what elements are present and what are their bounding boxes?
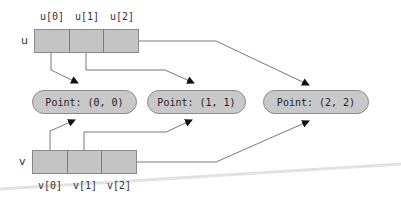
array-cell-v0	[33, 151, 68, 173]
point-object-2: Point: (2, 2)	[263, 90, 369, 114]
array-cell-u2	[104, 30, 138, 52]
arrow-v2	[119, 121, 309, 162]
point-object-0: Point: (0, 0)	[32, 90, 137, 114]
array-cell-u0	[35, 30, 70, 52]
point-object-1: Point: (1, 1)	[147, 90, 246, 114]
array-u	[34, 29, 139, 53]
index-label-u2: u[2]	[110, 11, 134, 22]
index-label-u0: u[0]	[40, 11, 64, 22]
arrow-u2	[120, 41, 309, 85]
array-cell-v2	[102, 151, 136, 173]
array-name-v: v	[19, 155, 26, 168]
index-label-v0: v[0]	[38, 180, 62, 191]
array-cell-u1	[70, 30, 105, 52]
index-label-v1: v[1]	[73, 180, 97, 191]
reference-diagram: u u[0] u[1] u[2] Point: (0, 0) Point: (1…	[0, 0, 401, 203]
array-cell-v1	[68, 151, 103, 173]
index-label-u1: u[1]	[75, 11, 99, 22]
array-v	[32, 150, 137, 174]
index-label-v2: v[2]	[107, 180, 131, 191]
array-name-u: u	[21, 34, 28, 47]
